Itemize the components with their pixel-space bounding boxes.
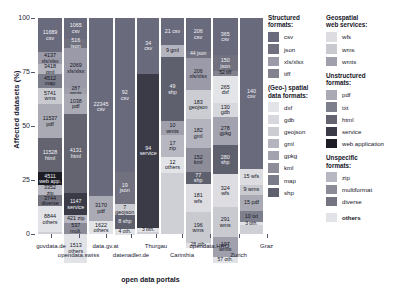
bar-column[interactable]: 206 csv44 json206 xls/xlsx183 geojson182… [186,18,211,234]
bar-column[interactable]: 1065 csv516 json2069 xls/xlsx287 wmts103… [64,18,87,234]
bar-segment[interactable]: 3352 zip [38,185,62,195]
bar-segment[interactable]: 4137 xls/xlsx [38,52,62,64]
bar-segment[interactable]: 365 csv [213,18,238,55]
legend-item[interactable]: multiformat [326,184,399,195]
legend-item[interactable]: html [326,114,399,125]
bar-segment[interactable]: 11537 pdf [38,104,62,138]
legend-item[interactable]: web application [326,138,399,149]
bar-segment[interactable]: 4512 map [38,74,62,87]
bar-segment[interactable]: 8 shp [115,215,135,228]
bar-column[interactable]: 34 csv94 service3 oth. [137,18,159,234]
bar-segment[interactable]: 34 csv [137,18,159,74]
bar-column[interactable]: 140 csv15 wfs9 wms15 pdf10 txt3 oth. [240,18,263,234]
bar-segment[interactable]: 4131 html [64,114,87,193]
legend-item[interactable]: dxf [268,101,326,112]
bar-segment[interactable]: 206 csv [186,18,211,51]
bar-column[interactable]: 365 csv150 json52 tiff265 dxf130 gdb278 … [213,18,238,234]
bar-segment[interactable]: 17 zip [161,135,183,157]
legend-item[interactable]: shp [268,187,326,198]
bar-segment[interactable]: 3170 pdf [89,196,112,221]
bar-segment[interactable]: 1065 csv [64,18,87,39]
bar-segment[interactable]: 150 json [213,55,238,70]
bar-column[interactable]: 22345 csv3170 pdf1622 others [89,18,112,234]
legend-item[interactable]: map [268,175,326,186]
segment-label: 8 shp [115,219,135,225]
bar-segment[interactable]: 280 shp [213,145,238,174]
legend-item[interactable]: service [326,126,399,137]
bar-segment[interactable]: 291 wms [213,207,238,237]
legend-item[interactable]: gpkg [268,150,326,161]
legend-item[interactable]: json [268,44,326,55]
legend-item[interactable]: wms [326,44,399,55]
bar-segment[interactable]: 206 xls/xlsx [186,58,211,91]
legend-item[interactable]: gdb [268,114,326,125]
bar-segment[interactable]: 3 oth. [137,228,159,233]
legend-item[interactable]: kml [268,162,326,173]
bar-segment[interactable]: 19 json [115,172,135,204]
bar-segment[interactable]: 7 geojson [115,204,135,216]
legend-item[interactable]: geojson [268,126,326,137]
bar-segment[interactable]: 11689 csv [38,18,62,52]
bar-segment[interactable]: 537 mult. [64,223,87,233]
legend-item[interactable]: wfs [326,31,399,42]
bar-segment[interactable]: 5741 wms [38,88,62,105]
bar-segment[interactable]: 324 wfs [213,174,238,207]
segment-label: 49 shp [161,84,183,95]
segment-label: 11689 csv [38,30,62,41]
bar-segment[interactable]: 140 csv [240,18,263,169]
bar-segment[interactable]: 8844 others [38,206,62,232]
bar-segment[interactable]: 11528 html [38,138,62,172]
legend-item[interactable]: wmts [326,56,399,67]
bar-segment[interactable]: 1038 pdf [64,94,87,114]
bar-segment[interactable]: 3418 gml [38,64,62,74]
bar-segment[interactable]: 49 shp [161,57,183,121]
bar-segment[interactable]: 15 pdf [240,195,263,211]
bar-segment[interactable]: 44 json [186,51,211,58]
bar-segment[interactable]: 77 shp [186,172,211,184]
bar-segment[interactable]: 278 gpkg [213,117,238,146]
legend-item[interactable]: csv [268,31,326,42]
bar-column[interactable]: 11689 csv4137 xls/xlsx3418 gml4512 map57… [38,18,62,234]
bar-segment[interactable]: 1622 others [89,221,112,234]
bar-segment[interactable]: 15 wfs [240,169,263,185]
legend-label: shp [284,189,294,196]
legend-item[interactable]: pdf [326,89,399,100]
bar-segment[interactable]: 421 zip [64,215,87,223]
bar-segment[interactable]: 152 kml [186,148,211,172]
bar-segment[interactable]: 92 csv [115,18,135,172]
bar-segment[interactable]: 22345 csv [89,18,112,196]
legend-item[interactable]: gml [268,138,326,149]
bar-segment[interactable]: 516 json [64,39,87,49]
legend-swatch [326,213,337,222]
bar-segment[interactable]: 4511 web app. [38,172,62,185]
legend-item[interactable]: zip [326,172,399,183]
bar-column[interactable]: 21 csv9 gml49 shp10 wmts17 zip12 others [161,18,183,234]
x-axis-label: opendata.HRO [184,243,236,249]
bar-segment[interactable]: 10 txt [240,211,263,222]
legend-item[interactable]: xls/xlsx [268,56,326,67]
segment-label: 152 kml [186,154,211,165]
segment-label: 365 csv [213,31,238,42]
bar-segment[interactable]: 183 geojson [186,90,211,119]
bar-segment[interactable]: 182 gml [186,119,211,148]
bar-segment[interactable]: 9 gml [161,45,183,57]
bar-segment[interactable]: 12 others [161,157,183,173]
legend-item[interactable]: txt [326,101,399,112]
bar-segment[interactable]: 10 wmts [161,121,183,134]
legend-item[interactable]: diverse [326,196,399,207]
legend-item[interactable]: others [326,212,399,223]
bar-segment[interactable]: 9 wms [240,185,263,195]
segment-label: 1147 service [64,199,87,210]
bar-segment[interactable]: 3 oth. [240,222,263,225]
bar-segment[interactable]: 21 csv [161,18,183,45]
bar-segment[interactable]: 265 dxf [213,76,238,103]
bar-segment[interactable]: 130 gdb [213,103,238,116]
bar-column[interactable]: 92 csv19 json7 geojson8 shp4 oth. [115,18,135,234]
bar-segment[interactable]: 94 service [137,74,159,228]
legend-swatch [268,57,279,66]
bar-segment[interactable]: 1147 service [64,193,87,215]
bar-segment[interactable]: 3744 diverse [38,195,62,206]
legend-item[interactable]: tiff [268,68,326,79]
bar-segment[interactable]: 2069 xls/xlsx [64,48,87,88]
bar-segment[interactable]: 181 wfs [186,184,211,213]
